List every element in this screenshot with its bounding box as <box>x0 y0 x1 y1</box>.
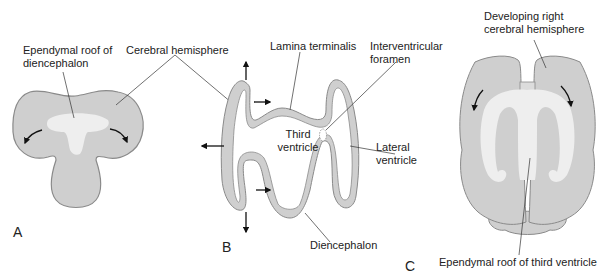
label-interventricular-foramen: Interventricular foramen <box>370 40 443 66</box>
label-ependymal-roof-diencephalon: Ependymal roof of diencephalon <box>23 44 112 70</box>
label-cerebral-hemisphere: Cerebral hemisphere <box>126 44 229 57</box>
label-line: ventricle <box>376 154 417 167</box>
label-line: Interventricular <box>370 40 443 53</box>
label-line: foramen <box>370 53 443 66</box>
label-line: Developing right <box>484 10 584 23</box>
label-line: Ependymal roof of <box>23 44 112 57</box>
label-lateral-ventricle: Lateral ventricle <box>376 141 417 167</box>
label-line: Lateral <box>376 141 417 154</box>
panel-a-brain <box>13 55 232 208</box>
embryonic-brain-diagram: Ependymal roof of diencephalon Cerebral … <box>0 0 601 279</box>
panel-letter-a: A <box>13 224 22 240</box>
label-ependymal-roof-third-ventricle: Ependymal roof of third ventricle <box>439 256 597 269</box>
label-line: diencephalon <box>23 57 112 70</box>
label-line: cerebral hemisphere <box>484 23 584 36</box>
label-diencephalon: Diencephalon <box>310 239 377 252</box>
panel-letter-b: B <box>222 239 231 255</box>
panel-c-brain <box>460 40 595 255</box>
panel-letter-c: C <box>405 258 415 274</box>
label-lamina-terminalis: Lamina terminalis <box>270 40 356 53</box>
label-line: Third <box>270 128 326 141</box>
label-developing-right-hemisphere: Developing right cerebral hemisphere <box>484 10 584 36</box>
label-line: ventricle <box>270 141 326 154</box>
label-third-ventricle: Third ventricle <box>270 128 326 154</box>
